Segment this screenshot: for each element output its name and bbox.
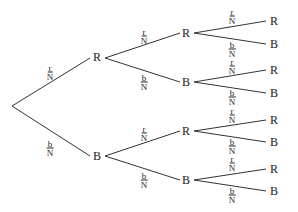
fraction-denominator: N (46, 73, 55, 81)
tree-node-l1r: R (93, 51, 101, 63)
tree-node-l3brr: R (270, 114, 278, 126)
edge-probability-label: rN (46, 64, 55, 81)
probability-tree-diagram: RBRBRBRBRBRBRBrNbNrNbNrNbNrNbNrNbNrNbNrN… (0, 0, 298, 212)
fraction-denominator: N (140, 37, 149, 45)
fraction-denominator: N (140, 134, 149, 142)
edge-probability-label: rN (228, 107, 237, 124)
tree-node-l2br: R (182, 125, 190, 137)
fraction-denominator: N (228, 116, 237, 124)
edge-probability-label: rN (228, 8, 237, 25)
tree-node-l3bbr: R (270, 163, 278, 175)
fraction-denominator: N (140, 181, 149, 189)
tree-node-l3rbb: B (270, 87, 278, 99)
edge-probability-label: rN (140, 28, 149, 45)
edge-probability-label: bN (46, 140, 55, 157)
edge-probability-label: rN (228, 58, 237, 75)
tree-node-l2rr: R (182, 27, 190, 39)
edge-probability-label: rN (228, 155, 237, 172)
tree-node-l2bb: B (182, 174, 190, 186)
edge-probability-label: bN (140, 172, 149, 189)
fraction-denominator: N (228, 98, 237, 106)
edge-probability-label: bN (228, 187, 237, 204)
fraction-denominator: N (228, 67, 237, 75)
edge-probability-label: bN (228, 89, 237, 106)
tree-edges (0, 0, 298, 212)
edge-probability-label: bN (228, 41, 237, 58)
edge-probability-label: rN (140, 125, 149, 142)
tree-node-l3rrb: B (270, 38, 278, 50)
tree-node-l3brb: B (270, 136, 278, 148)
tree-node-l1b: B (93, 150, 101, 162)
edge-probability-label: bN (140, 74, 149, 91)
fraction-denominator: N (228, 196, 237, 204)
fraction-denominator: N (228, 17, 237, 25)
edge-probability-label: bN (228, 138, 237, 155)
tree-node-l3bbb: B (270, 185, 278, 197)
fraction-denominator: N (228, 164, 237, 172)
fraction-denominator: N (140, 83, 149, 91)
tree-node-l2rb: B (182, 76, 190, 88)
tree-node-l3rrr: R (270, 15, 278, 27)
fraction-denominator: N (46, 149, 55, 157)
tree-node-l3rbr: R (270, 64, 278, 76)
